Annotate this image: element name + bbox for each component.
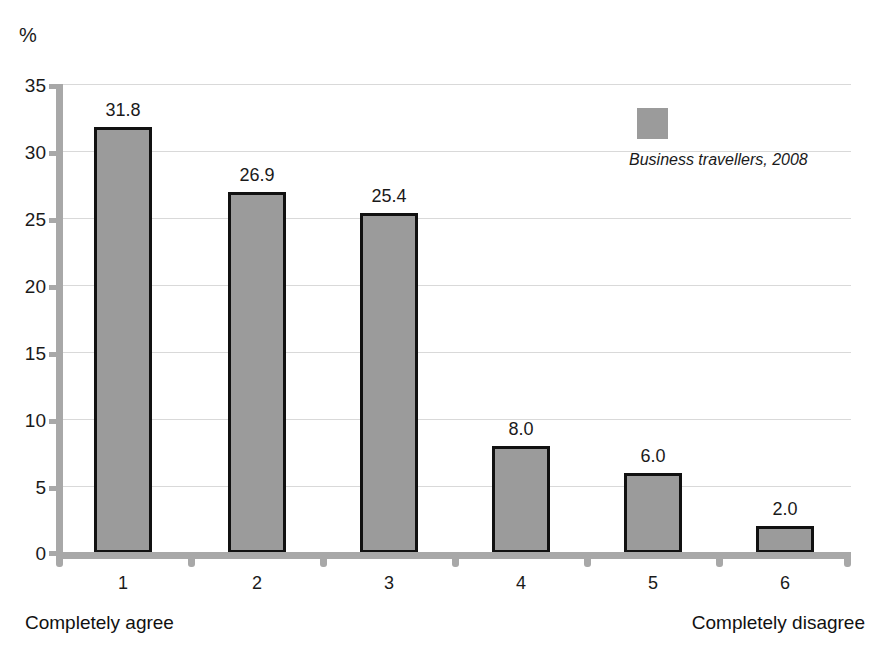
y-tick-label-group: 35 30 25 20 15 10 5 0 — [0, 0, 46, 655]
gridline-10 — [56, 419, 851, 420]
x-tick-boundary-1 — [188, 559, 195, 567]
x-tick-boundary-5 — [716, 559, 723, 567]
y-tick-0 — [49, 551, 57, 556]
bar-value-label-2: 26.9 — [228, 166, 286, 184]
y-axis-line — [56, 84, 63, 553]
y-tick-5 — [49, 486, 57, 491]
scale-anchor-left-label: Completely agree — [25, 612, 174, 634]
gridline-5 — [56, 486, 851, 487]
x-tick-boundary-0 — [56, 559, 63, 567]
scale-anchor-right-label: Completely disagree — [692, 612, 865, 634]
bar-category-5 — [624, 473, 682, 553]
x-axis-line — [56, 552, 851, 559]
x-tick-label-2: 2 — [228, 573, 286, 593]
x-tick-boundary-3 — [452, 559, 459, 567]
bar-value-label-1: 31.8 — [94, 101, 152, 119]
gridline-20 — [56, 285, 851, 286]
x-tick-label-4: 4 — [492, 573, 550, 593]
gridline-25 — [56, 218, 851, 219]
y-tick-label-5: 5 — [12, 478, 46, 497]
gridline-15 — [56, 352, 851, 353]
y-tick-label-35: 35 — [12, 76, 46, 95]
bar-category-3 — [360, 213, 418, 553]
bar-value-label-3: 25.4 — [360, 187, 418, 205]
legend: Business travellers, 2008 — [637, 108, 867, 139]
y-tick-label-25: 25 — [12, 210, 46, 229]
y-tick-35 — [49, 84, 57, 89]
x-tick-boundary-2 — [320, 559, 327, 567]
gridline-35 — [56, 84, 851, 85]
bar-category-2 — [228, 192, 286, 553]
x-tick-label-5: 5 — [624, 573, 682, 593]
x-tick-boundary-4 — [584, 559, 591, 567]
x-tick-label-3: 3 — [360, 573, 418, 593]
y-tick-label-30: 30 — [12, 143, 46, 162]
y-tick-15 — [49, 352, 57, 357]
legend-swatch-business-travellers — [637, 108, 668, 139]
x-tick-label-6: 6 — [756, 573, 814, 593]
x-tick-boundary-6 — [844, 559, 851, 567]
y-tick-label-0: 0 — [12, 544, 46, 563]
x-tick-label-1: 1 — [94, 573, 152, 593]
bar-value-label-4: 8.0 — [492, 420, 550, 438]
bar-category-4 — [492, 446, 550, 553]
bar-value-label-5: 6.0 — [624, 447, 682, 465]
y-tick-label-10: 10 — [12, 411, 46, 430]
bar-category-6 — [756, 526, 814, 553]
y-tick-20 — [49, 285, 57, 290]
legend-label-business-travellers: Business travellers, 2008 — [629, 150, 808, 169]
chart-page: % 31.8 26.9 25.4 8.0 6.0 2.0 35 30 — [0, 0, 885, 655]
y-tick-30 — [49, 151, 57, 156]
y-tick-label-20: 20 — [12, 277, 46, 296]
y-tick-10 — [49, 419, 57, 424]
bar-category-1 — [94, 127, 152, 553]
y-tick-label-15: 15 — [12, 344, 46, 363]
bar-value-label-6: 2.0 — [756, 500, 814, 518]
y-tick-25 — [49, 218, 57, 223]
